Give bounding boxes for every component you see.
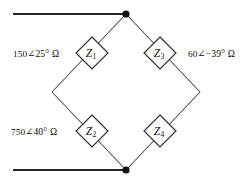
- z3-unit: Ω: [228, 48, 235, 59]
- z4-subscript: 4: [161, 130, 165, 139]
- component-z3[interactable]: Z3: [144, 37, 176, 69]
- junction-nodes: [122, 10, 129, 173]
- z1-angle: ∠25°: [27, 48, 49, 59]
- z1-magnitude: 150: [13, 49, 27, 59]
- bridge-branch-lines: [52, 14, 200, 170]
- z2-magnitude: 750: [11, 127, 25, 137]
- z1-value-annotation: 150∠25° Ω: [13, 49, 59, 59]
- z2-unit: Ω: [50, 126, 57, 137]
- z1-subscript: 1: [93, 52, 97, 61]
- z1-unit: Ω: [52, 48, 59, 59]
- component-z4[interactable]: Z4: [144, 115, 176, 147]
- terminal-leads: [13, 14, 126, 170]
- z3-angle: ∠−39°: [198, 48, 226, 59]
- z3-magnitude: 60: [188, 49, 198, 59]
- component-z1[interactable]: Z1: [76, 37, 108, 69]
- z2-angle: ∠40°: [25, 126, 47, 137]
- z2-value-annotation: 750∠40° Ω: [11, 127, 57, 137]
- z3-subscript: 3: [161, 52, 165, 61]
- top-junction-node-dot: [122, 10, 129, 17]
- bottom-junction-node-dot: [122, 166, 129, 173]
- circuit-diagram-figure: Z1 Z3 Z2 Z4 150∠25° Ω 750∠40° Ω 60∠−39° …: [0, 0, 246, 186]
- component-z2[interactable]: Z2: [76, 115, 108, 147]
- z3-value-annotation: 60∠−39° Ω: [188, 49, 235, 59]
- z2-subscript: 2: [93, 130, 97, 139]
- circuit-schematic-canvas: Z1 Z3 Z2 Z4: [0, 0, 246, 186]
